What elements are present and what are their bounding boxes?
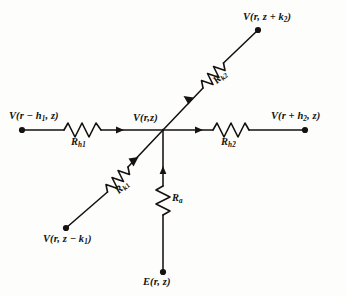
node-label-upper-right: V(r, z + k2): [243, 11, 291, 24]
node-label-bottom: E(r, z): [143, 276, 171, 287]
node-label-center: V(r,z): [133, 112, 158, 123]
terminal-dot-right: [302, 127, 308, 133]
circuit-wire-layer: .wire{stroke:#15120f;stroke-width:1.55;f…: [0, 0, 346, 296]
node-label-lower-left: V(r, z − k1): [43, 233, 92, 246]
branch-left: [19, 123, 163, 137]
resistor-rh2-symbol: [213, 123, 249, 137]
center-junction: [162, 129, 164, 131]
branch-bottom: [156, 130, 170, 275]
node-label-right: V(r + h2, z): [271, 110, 320, 123]
node-label-left: V(r − h1, z): [9, 110, 59, 123]
wire-ur-inner: [163, 88, 203, 130]
terminal-dot-bottom: [160, 269, 166, 275]
resistor-ra-symbol: [156, 186, 170, 215]
terminal-dot-left: [19, 127, 25, 133]
resistor-label-ra: Ra: [172, 192, 183, 205]
terminal-dot-upper-right: [255, 27, 261, 33]
arrowhead-bottom-branch: [160, 166, 167, 174]
resistor-rh1-symbol: [64, 123, 101, 137]
branch-right: [163, 123, 308, 137]
resistor-label-rh2: Rh2: [221, 136, 236, 149]
resistor-label-rh1: Rh1: [71, 136, 86, 149]
figure-canvas: .wire{stroke:#15120f;stroke-width:1.55;f…: [0, 0, 346, 296]
arrowhead-right-branch: [195, 127, 203, 134]
terminal-dot-lower-left: [63, 225, 69, 231]
arrowhead-left-branch: [116, 127, 124, 134]
wire-ll-outer: [66, 192, 108, 228]
wire-ur-outer: [224, 30, 259, 63]
